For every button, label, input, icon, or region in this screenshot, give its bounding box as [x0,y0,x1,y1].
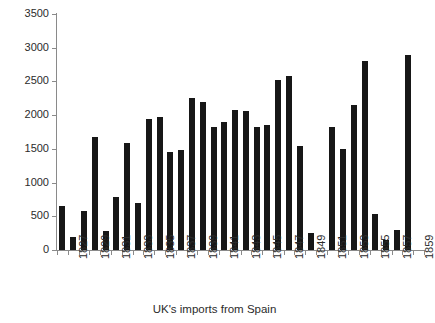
bar [232,110,238,250]
x-axis-tick-mark [176,251,177,255]
x-axis-tick-label: 1839 [208,235,219,259]
y-axis-tick: 1500 [0,149,57,150]
bar [394,230,400,250]
x-axis-tick-label: 1843 [251,235,262,259]
y-axis-tick: 500 [0,216,57,217]
bar [189,98,195,250]
x-axis-tick-mark [370,251,371,255]
x-axis-tick-mark [57,251,58,255]
bar [157,117,163,250]
x-axis-tick-label: 1833 [143,235,154,259]
y-axis-tick-label: 0 [43,243,49,256]
y-axis-tick-label: 1000 [25,176,49,189]
x-axis-tick-mark [197,251,198,255]
bar [178,150,184,250]
bar [113,197,119,250]
y-axis-tick-label: 2500 [25,74,49,87]
x-axis-tick-mark [305,251,306,255]
bar [92,137,98,250]
x-axis-tick-mark [413,251,414,255]
y-axis-tick-label: 2000 [25,108,49,121]
x-axis-tick-mark [284,251,285,255]
x-axis-tick-mark [348,251,349,255]
x-axis-tick-label: 1859 [424,235,435,259]
bar [329,127,335,250]
bar [135,203,141,250]
x-axis-tick-label: 1835 [165,235,176,259]
y-axis-tick-label: 500 [31,209,49,222]
x-axis-tick-label: 1837 [186,235,197,259]
y-axis-tick: 3000 [0,48,57,49]
bar [243,111,249,250]
x-axis-tick-mark [68,251,69,255]
bar [59,206,65,250]
x-axis-tick-label: 1849 [316,235,327,259]
x-axis-tick-mark [111,251,112,255]
bar [308,233,314,250]
bar [200,102,206,250]
bar [351,105,357,250]
y-axis-tick-label: 3000 [25,41,49,54]
x-axis-tick-mark [133,251,134,255]
bar [362,61,368,250]
plot-area [57,14,424,250]
bar [146,119,152,250]
bar [405,55,411,250]
x-axis-tick-mark [327,251,328,255]
bar [211,127,217,250]
x-axis-tick-label: 1851 [337,235,348,259]
x-axis-tick-mark [89,251,90,255]
x-axis-tick-label: 1847 [294,235,305,259]
y-axis-tick-label: 1500 [25,142,49,155]
x-axis-tick-mark [392,251,393,255]
x-axis-tick-label: 1855 [380,235,391,259]
x-axis-tick-mark [241,251,242,255]
y-axis-tick: 2000 [0,115,57,116]
x-axis-tick-label: 1845 [272,235,283,259]
x-axis-tick-label: 1853 [359,235,370,259]
bar [275,80,281,250]
y-axis-tick: 1000 [0,183,57,184]
bar [254,127,260,250]
x-axis-tick-label: 1857 [402,235,413,259]
y-axis-tick: 0 [0,250,57,251]
bar [264,125,270,250]
bar [286,76,292,250]
x-axis-tick-label: 1827 [78,235,89,259]
x-axis-tick-label: 1831 [121,235,132,259]
x-axis-title: UK's imports from Spain [0,303,429,315]
x-axis-tick-mark [154,251,155,255]
y-axis-tick: 2500 [0,81,57,82]
bar [221,122,227,250]
x-axis-tick-label: 1829 [100,235,111,259]
x-axis-tick-label: 1841 [229,235,240,259]
x-axis-tick-mark [262,251,263,255]
y-axis-tick: 3500 [0,14,57,15]
x-axis-tick-mark [219,251,220,255]
y-axis-tick-label: 3500 [25,7,49,20]
bar [70,237,76,250]
bar [372,214,378,250]
cropped-title-remnant [0,0,429,4]
